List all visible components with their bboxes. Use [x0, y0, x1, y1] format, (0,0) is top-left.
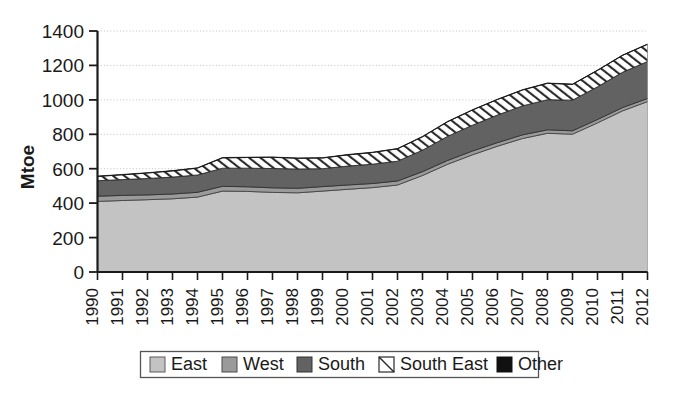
- y-tick-label: 200: [52, 228, 84, 249]
- x-tick-label: 2007: [508, 288, 527, 326]
- chart-legend: East West South South East Other: [141, 352, 564, 378]
- legend-swatch-east: [150, 357, 165, 372]
- legend-swatch-other: [497, 357, 512, 372]
- x-tick-labels: 1990 1991 1992 1993 1994 1995 1996 1997 …: [83, 288, 652, 326]
- x-ticks: [98, 272, 648, 280]
- x-tick-label: 1999: [308, 288, 327, 326]
- x-tick-label: 1993: [158, 288, 177, 326]
- legend-label-south-east: South East: [400, 354, 488, 374]
- x-tick-label: 2000: [333, 288, 352, 326]
- legend-label-south: South: [318, 354, 365, 374]
- x-tick-label: 2012: [633, 288, 652, 326]
- y-tick-label: 600: [52, 159, 84, 180]
- legend-label-west: West: [243, 354, 284, 374]
- x-tick-label: 1997: [258, 288, 277, 326]
- y-axis-title: Mtoe: [17, 145, 38, 189]
- x-tick-label: 2004: [433, 288, 452, 326]
- x-tick-label: 2005: [458, 288, 477, 326]
- x-tick-label: 2009: [558, 288, 577, 326]
- x-tick-label: 1990: [83, 288, 102, 326]
- x-tick-label: 1991: [108, 288, 127, 326]
- x-tick-label: 2011: [608, 288, 627, 325]
- stacked-area-chart: 1400 1200 1000 800 600 400 200 0 Mtoe: [0, 0, 680, 396]
- y-ticks: [89, 31, 98, 272]
- x-tick-label: 2008: [533, 288, 552, 326]
- y-tick-label: 1200: [42, 55, 84, 76]
- y-tick-label: 1000: [42, 90, 84, 111]
- x-tick-label: 1998: [283, 288, 302, 326]
- legend-swatch-south: [297, 357, 312, 372]
- y-tick-label: 0: [73, 262, 84, 283]
- legend-label-east: East: [171, 354, 207, 374]
- legend-swatch-west: [222, 357, 237, 372]
- y-tick-labels: 1400 1200 1000 800 600 400 200 0: [42, 21, 84, 283]
- chart-figure: 1400 1200 1000 800 600 400 200 0 Mtoe: [0, 0, 680, 396]
- x-tick-label: 1996: [233, 288, 252, 326]
- x-tick-label: 2002: [383, 288, 402, 326]
- x-tick-label: 1992: [133, 288, 152, 326]
- x-tick-label: 1994: [183, 288, 202, 326]
- legend-label-other: Other: [518, 354, 563, 374]
- y-tick-label: 400: [52, 193, 84, 214]
- y-tick-label: 1400: [42, 21, 84, 42]
- x-tick-label: 2003: [408, 288, 427, 326]
- y-tick-label: 800: [52, 124, 84, 145]
- x-tick-label: 2010: [583, 288, 602, 326]
- x-tick-label: 2006: [483, 288, 502, 326]
- x-tick-label: 1995: [208, 288, 227, 326]
- x-tick-label: 2001: [358, 288, 377, 326]
